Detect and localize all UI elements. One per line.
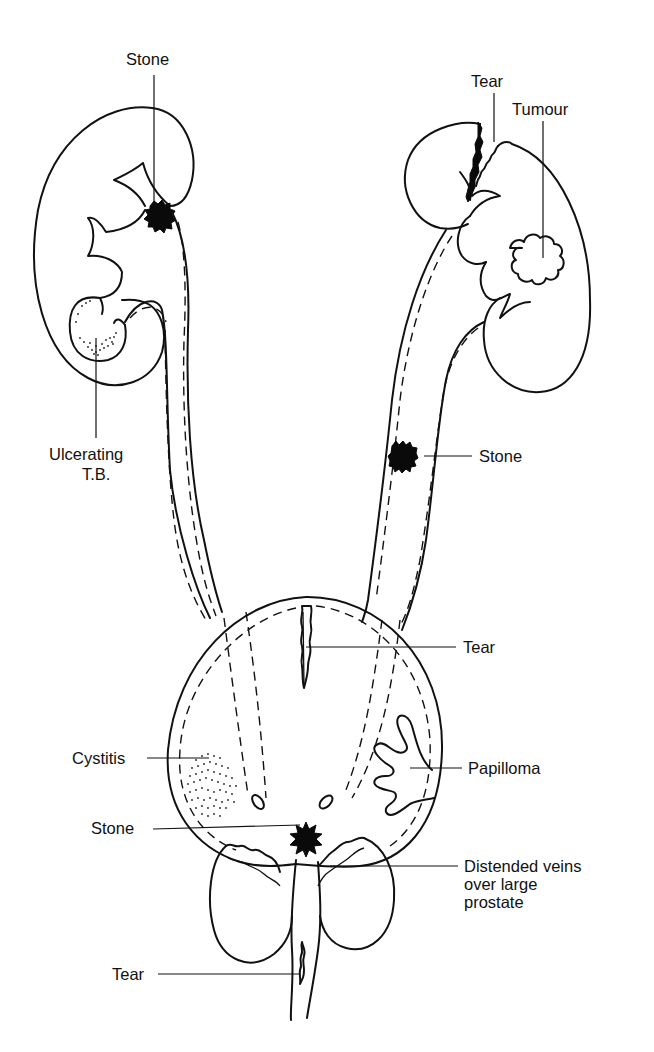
label-urethra-tear: Tear (112, 965, 145, 983)
urethra-tear-icon (300, 942, 305, 984)
label-distended-veins-line1: Distended veins (464, 857, 581, 875)
tumour-icon (510, 235, 564, 285)
bladder-neck-stone-icon (290, 822, 322, 857)
ureter-right (125, 212, 222, 620)
urinary-tract-diagram: Stone Ulcerating T.B. Tear Tumour Stone … (0, 0, 654, 1052)
label-tumour: Tumour (512, 100, 569, 118)
kidney-left (405, 122, 590, 392)
label-papilloma: Papilloma (468, 759, 541, 777)
ureteric-orifice-right-icon (250, 793, 267, 811)
bladder (168, 597, 442, 867)
label-bladder-tear: Tear (463, 638, 496, 656)
label-ulcerating-tb-line2: T.B. (82, 465, 110, 483)
cystitis-stippling (187, 753, 237, 817)
label-distended-veins-line3: prostate (464, 893, 524, 911)
label-ureter-stone: Stone (479, 447, 522, 465)
urethra (291, 860, 320, 1020)
label-distended-veins-line2: over large (464, 875, 537, 893)
label-kidney-tear: Tear (471, 72, 504, 90)
ureter-left (362, 230, 484, 630)
label-kidney-stone: Stone (126, 50, 169, 68)
label-ulcerating-tb-line1: Ulcerating (49, 445, 123, 463)
kidney-tear-icon (466, 122, 483, 202)
label-bladder-stone: Stone (91, 819, 134, 837)
kidney-right (34, 107, 193, 385)
ureteric-orifice-left-icon (317, 793, 335, 811)
papilloma-icon (374, 716, 434, 815)
label-cystitis: Cystitis (72, 749, 125, 767)
kidney-stone-icon (144, 200, 176, 233)
